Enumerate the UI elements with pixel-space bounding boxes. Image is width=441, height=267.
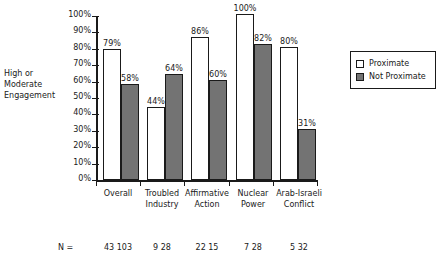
y-tick-label-3: 30% <box>73 125 91 135</box>
bar-proximate-affirmative-action: 86% <box>191 37 209 180</box>
sample-size-label: N = <box>58 243 73 253</box>
x-category-label-arab-israeli-conflict: Arab-Israeli Conflict <box>274 188 324 210</box>
y-tick-2: 20% <box>96 147 97 148</box>
bar-value-not-proximate-overall: 58% <box>121 74 139 83</box>
x-category-label-overall: Overall <box>96 188 140 199</box>
x-axis-line <box>96 180 318 182</box>
bar-value-proximate-arab-israeli-conflict: 80% <box>280 37 298 46</box>
y-tick-label-9: 90% <box>73 26 91 36</box>
y-tick-6: 60% <box>96 82 97 83</box>
bar-not-proximate-troubled-industry: 64% <box>165 74 183 180</box>
bar-proximate-troubled-industry: 44% <box>147 107 165 180</box>
sample-size-nuclear-power: 7 28 <box>231 243 275 253</box>
y-tick-5: 50% <box>96 98 97 99</box>
y-tick-label-5: 50% <box>73 92 91 102</box>
x-tick-4 <box>273 180 274 186</box>
bar-not-proximate-nuclear-power: 82% <box>254 44 272 180</box>
plot-area: 0% 10% 20% 30% 40% 50% 60% 70% <box>96 16 318 182</box>
bar-value-not-proximate-troubled-industry: 64% <box>165 64 183 73</box>
x-tick-1 <box>140 180 141 186</box>
x-tick-3 <box>229 180 230 186</box>
legend-item-proximate: Proximate <box>356 57 431 70</box>
sample-size-affirmative-action: 22 15 <box>184 243 230 253</box>
legend-label-not-proximate: Not Proximate <box>369 72 426 82</box>
y-tick-9: 90% <box>96 32 97 33</box>
bar-value-proximate-nuclear-power: 100% <box>234 4 257 13</box>
y-axis-line <box>96 16 98 182</box>
x-tick-5 <box>317 180 318 186</box>
bar-proximate-nuclear-power: 100% <box>236 14 254 180</box>
y-tick-label-0: 0% <box>78 174 91 184</box>
x-category-label-affirmative-action: Affirmative Action <box>184 188 230 210</box>
bar-value-proximate-overall: 79% <box>103 39 121 48</box>
y-tick-label-2: 20% <box>73 141 91 151</box>
legend-swatch-not-proximate-icon <box>356 73 364 81</box>
bar-proximate-overall: 79% <box>103 49 121 180</box>
y-tick-label-6: 60% <box>73 76 91 86</box>
y-tick-7: 70% <box>96 65 97 66</box>
bar-value-not-proximate-nuclear-power: 82% <box>254 34 272 43</box>
bar-value-not-proximate-arab-israeli-conflict: 31% <box>298 119 316 128</box>
x-category-label-troubled-industry: Troubled Industry <box>140 188 184 210</box>
bar-not-proximate-arab-israeli-conflict: 31% <box>298 129 316 181</box>
bar-proximate-arab-israeli-conflict: 80% <box>280 47 298 180</box>
y-tick-label-4: 40% <box>73 108 91 118</box>
sample-size-overall: 43 103 <box>96 243 140 253</box>
bar-value-proximate-affirmative-action: 86% <box>191 27 209 36</box>
legend-item-not-proximate: Not Proximate <box>356 70 431 83</box>
x-category-label-nuclear-power: Nuclear Power <box>231 188 275 210</box>
y-tick-4: 40% <box>96 114 97 115</box>
y-tick-8: 80% <box>96 49 97 50</box>
y-tick-label-8: 80% <box>73 43 91 53</box>
legend: Proximate Not Proximate <box>350 51 436 89</box>
y-tick-3: 30% <box>96 131 97 132</box>
sample-size-arab-israeli-conflict: 5 32 <box>274 243 324 253</box>
y-tick-label-10: 100% <box>68 10 91 20</box>
bar-not-proximate-overall: 58% <box>121 84 139 180</box>
sample-size-troubled-industry: 9 28 <box>140 243 184 253</box>
bar-value-not-proximate-affirmative-action: 60% <box>209 70 227 79</box>
y-axis-title: High or Moderate Engagement <box>4 68 66 101</box>
bar-chart: High or Moderate Engagement 0% 10% 20% 3… <box>0 0 441 267</box>
legend-label-proximate: Proximate <box>369 59 409 69</box>
bar-value-proximate-troubled-industry: 44% <box>147 97 165 106</box>
y-tick-label-7: 70% <box>73 59 91 69</box>
x-tick-2b <box>184 180 185 186</box>
legend-swatch-proximate-icon <box>356 60 364 68</box>
x-tick-2 <box>96 180 97 186</box>
bar-not-proximate-affirmative-action: 60% <box>209 80 227 180</box>
y-tick-1: 10% <box>96 164 97 165</box>
y-tick-label-1: 10% <box>73 158 91 168</box>
y-tick-10: 100% <box>96 16 97 17</box>
